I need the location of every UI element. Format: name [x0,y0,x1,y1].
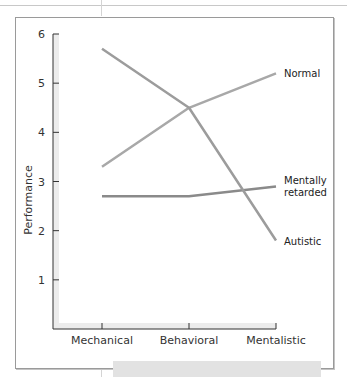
x-axis-shade [53,323,276,329]
series-label: Normal [284,68,320,79]
x-tick-label: Behavioral [160,334,219,347]
series-label: Autistic [284,236,321,247]
x-tick-label: Mechanical [71,334,133,347]
series-labels: NormalMentallyretardedAutistic [284,68,327,246]
series-line [102,49,276,241]
line-chart: 123456 MechanicalBehavioralMentalistic P… [0,0,347,377]
series-lines [102,49,276,241]
series-line [102,73,276,167]
y-tick-label: 2 [38,225,45,238]
series-label: retarded [284,187,327,198]
x-tick-label: Mentalistic [246,334,306,347]
y-axis-label: Performance [22,165,35,235]
series-line [102,186,276,196]
series-label: Mentally [284,175,327,186]
y-tick-label: 3 [38,176,45,189]
y-tick-label: 4 [38,126,45,139]
y-tick-label: 6 [38,28,45,41]
y-tick-label: 5 [38,77,45,90]
y-tick-label: 1 [38,274,45,287]
